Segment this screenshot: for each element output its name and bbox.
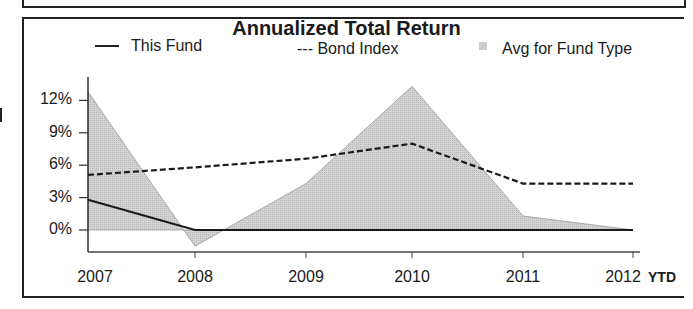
x-tick-label: 2009 xyxy=(276,268,336,286)
y-tick-label: 3% xyxy=(22,188,72,206)
ytd-label: YTD xyxy=(648,269,676,285)
x-tick-label: 2007 xyxy=(65,268,125,286)
y-tick-label: 0% xyxy=(22,220,72,238)
x-tick-label: 2012 xyxy=(593,268,653,286)
y-tick-label: 9% xyxy=(22,123,72,141)
y-tick-label: 6% xyxy=(22,155,72,173)
x-tick-label: 2010 xyxy=(382,268,442,286)
plot-area xyxy=(0,0,693,309)
y-tick-label: 12% xyxy=(22,90,72,108)
x-tick-label: 2011 xyxy=(493,268,553,286)
x-tick-label: 2008 xyxy=(165,268,225,286)
